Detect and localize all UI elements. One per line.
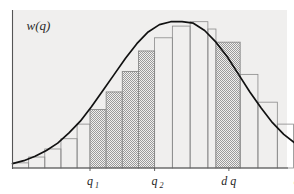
histogram-bar bbox=[122, 71, 138, 168]
figure-container: w(q)q1q2d qq bbox=[0, 0, 294, 194]
histogram-bar bbox=[138, 51, 154, 168]
distribution-chart: w(q)q1q2d qq bbox=[0, 0, 294, 194]
x-label-q2-text: q bbox=[152, 174, 158, 188]
x-label-q1-text: q bbox=[87, 174, 93, 188]
x-label-q2: q2 bbox=[152, 174, 164, 190]
x-label-q2-subscript: 2 bbox=[160, 181, 164, 190]
x-label-q1-subscript: 1 bbox=[95, 181, 99, 190]
x-label-dq: d q bbox=[221, 174, 236, 188]
x-label-q1: q1 bbox=[87, 174, 99, 190]
histogram-bar bbox=[216, 42, 240, 168]
x-label-dq-text: d q bbox=[221, 174, 236, 188]
histogram-bar bbox=[90, 109, 106, 168]
histogram-bar bbox=[106, 92, 122, 168]
y-axis-label: w(q) bbox=[27, 18, 51, 33]
